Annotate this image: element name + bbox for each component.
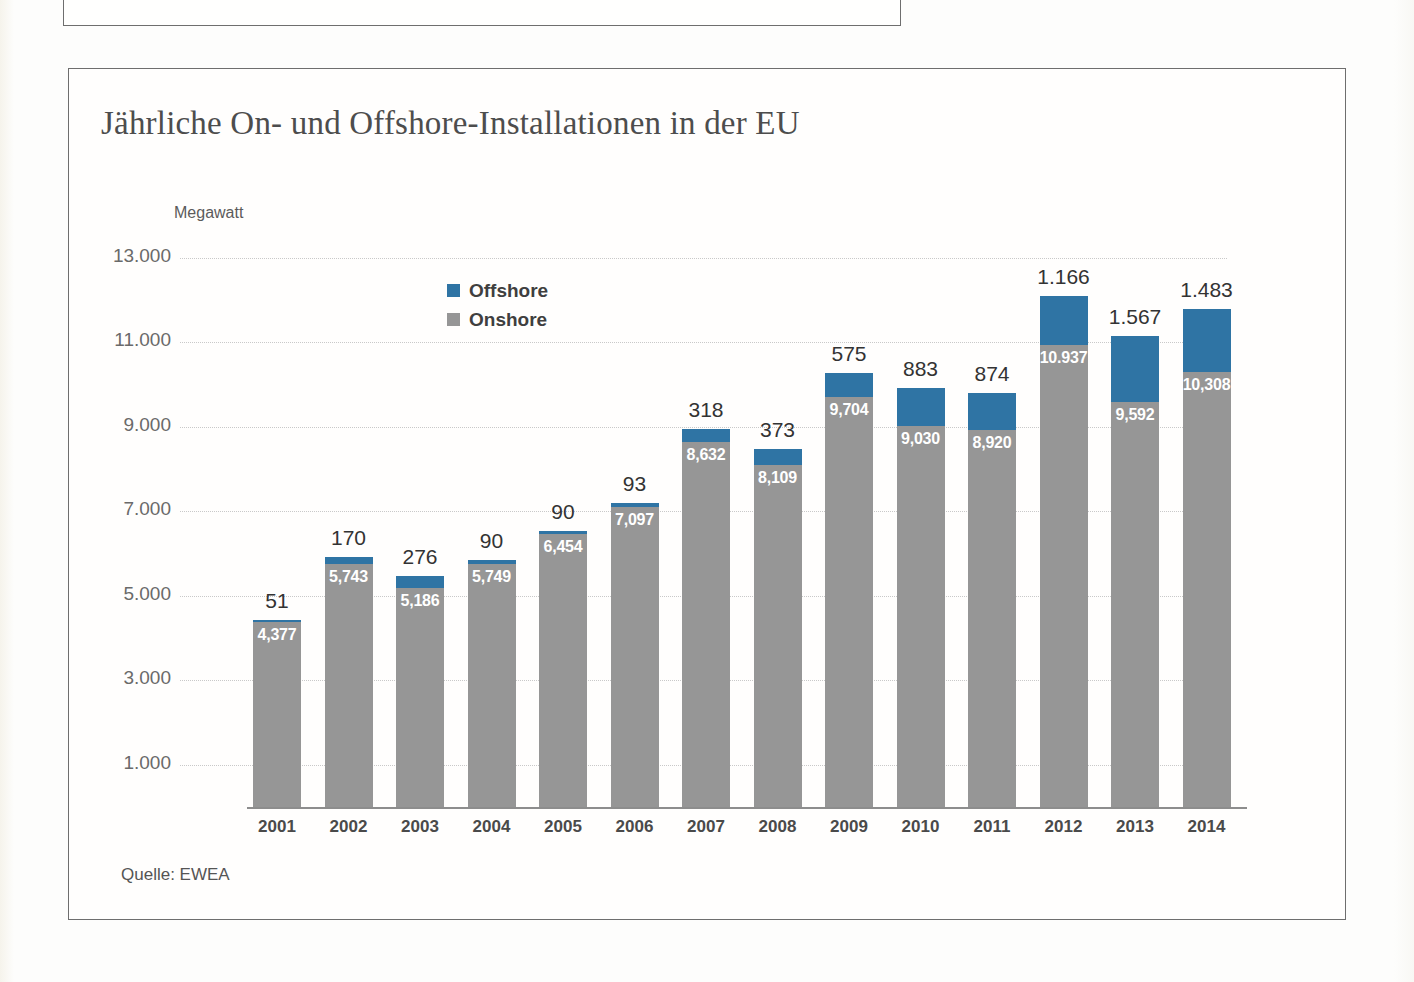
x-axis-tick-label: 2012 xyxy=(1029,817,1099,837)
x-axis-tick-label: 2006 xyxy=(600,817,670,837)
legend-swatch-offshore xyxy=(447,284,460,297)
bar-value-label-offshore: 170 xyxy=(311,526,387,550)
bar-value-label-offshore: 874 xyxy=(954,362,1030,386)
bar-value-label-onshore: 10,308 xyxy=(1183,376,1231,394)
x-axis-tick-label: 2013 xyxy=(1100,817,1170,837)
bar-value-label-offshore: 93 xyxy=(597,472,673,496)
bar-2012: 10.937 xyxy=(1040,296,1088,807)
x-axis-tick-label: 2010 xyxy=(886,817,956,837)
bar-value-label-offshore: 1.166 xyxy=(1026,265,1102,289)
bar-value-label-onshore: 8,109 xyxy=(754,469,802,487)
bar-segment-onshore: 9,030 xyxy=(897,426,945,807)
bar-segment-offshore xyxy=(1183,309,1231,372)
bar-segment-offshore xyxy=(682,429,730,442)
bar-value-label-onshore: 9,592 xyxy=(1111,406,1159,424)
x-axis-tick-label: 2007 xyxy=(671,817,741,837)
bar-segment-offshore xyxy=(825,373,873,397)
bar-segment-offshore xyxy=(754,449,802,465)
bar-segment-onshore: 5,186 xyxy=(396,588,444,807)
bar-2014: 10,308 xyxy=(1183,309,1231,807)
x-axis-tick-label: 2014 xyxy=(1172,817,1242,837)
bar-value-label-offshore: 1.483 xyxy=(1169,278,1245,302)
bar-value-label-offshore: 883 xyxy=(883,357,959,381)
bar-segment-onshore: 8,920 xyxy=(968,430,1016,807)
bar-segment-onshore: 5,743 xyxy=(325,564,373,807)
bar-segment-onshore: 10,308 xyxy=(1183,372,1231,807)
bar-value-label-onshore: 5,743 xyxy=(325,568,373,586)
bar-segment-offshore xyxy=(968,393,1016,430)
bar-value-label-onshore: 6,454 xyxy=(539,538,587,556)
plot-area: 1.0003.0005.0007.0009.00011.00013.0004,3… xyxy=(69,69,1347,921)
bar-segment-offshore xyxy=(1040,296,1088,345)
chart-container: Jährliche On- und Offshore-Installatione… xyxy=(68,68,1346,920)
y-axis-tick-label: 3.000 xyxy=(91,667,171,689)
bar-segment-offshore xyxy=(325,557,373,564)
legend-label-onshore: Onshore xyxy=(469,309,547,331)
bar-value-label-onshore: 9,704 xyxy=(825,401,873,419)
bar-segment-offshore xyxy=(396,576,444,588)
bar-segment-onshore: 8,632 xyxy=(682,442,730,807)
bar-2013: 9,592 xyxy=(1111,336,1159,807)
x-axis-tick-label: 2001 xyxy=(242,817,312,837)
bar-segment-offshore xyxy=(897,388,945,425)
x-axis-tick-label: 2002 xyxy=(314,817,384,837)
gridline xyxy=(180,258,1227,259)
bar-2008: 8,109 xyxy=(754,449,802,807)
legend-swatch-onshore xyxy=(447,313,460,326)
bar-value-label-offshore: 373 xyxy=(740,418,816,442)
bar-segment-onshore: 4,377 xyxy=(253,622,301,807)
bar-value-label-offshore: 90 xyxy=(454,529,530,553)
chart-source: Quelle: EWEA xyxy=(121,865,230,885)
bar-2009: 9,704 xyxy=(825,373,873,807)
bar-value-label-onshore: 8,632 xyxy=(682,446,730,464)
y-axis-tick-label: 5.000 xyxy=(91,583,171,605)
bar-2001: 4,377 xyxy=(253,620,301,807)
y-axis-tick-label: 1.000 xyxy=(91,752,171,774)
chart-legend: Offshore Onshore xyxy=(447,276,548,334)
bar-value-label-offshore: 276 xyxy=(382,545,458,569)
y-axis-tick-label: 11.000 xyxy=(91,329,171,351)
bar-value-label-offshore: 575 xyxy=(811,342,887,366)
partial-box-above-chart xyxy=(63,0,901,26)
bar-value-label-onshore: 8,920 xyxy=(968,434,1016,452)
scan-edge-right xyxy=(1394,0,1414,982)
y-axis-tick-label: 7.000 xyxy=(91,498,171,520)
x-axis-tick-label: 2005 xyxy=(528,817,598,837)
bar-value-label-onshore: 5,186 xyxy=(396,592,444,610)
bar-segment-onshore: 7,097 xyxy=(611,507,659,807)
legend-item-offshore: Offshore xyxy=(447,276,548,305)
x-axis-tick-label: 2004 xyxy=(457,817,527,837)
legend-item-onshore: Onshore xyxy=(447,305,548,334)
bar-value-label-onshore: 10.937 xyxy=(1040,349,1088,367)
bar-value-label-offshore: 51 xyxy=(239,589,315,613)
bar-2007: 8,632 xyxy=(682,429,730,807)
bar-value-label-onshore: 7,097 xyxy=(611,511,659,529)
bar-2006: 7,097 xyxy=(611,503,659,807)
bar-segment-onshore: 9,592 xyxy=(1111,402,1159,807)
bar-2011: 8,920 xyxy=(968,393,1016,807)
bar-segment-onshore: 6,454 xyxy=(539,534,587,807)
bar-2004: 5,749 xyxy=(468,560,516,807)
bar-2010: 9,030 xyxy=(897,388,945,807)
bar-segment-onshore: 9,704 xyxy=(825,397,873,807)
legend-label-offshore: Offshore xyxy=(469,280,548,302)
bar-value-label-onshore: 4,377 xyxy=(253,626,301,644)
y-axis-tick-label: 13.000 xyxy=(91,245,171,267)
x-axis-line xyxy=(247,807,1247,809)
x-axis-tick-label: 2011 xyxy=(957,817,1027,837)
bar-segment-onshore: 5,749 xyxy=(468,564,516,807)
bar-2003: 5,186 xyxy=(396,576,444,807)
x-axis-tick-label: 2003 xyxy=(385,817,455,837)
bar-segment-onshore: 10.937 xyxy=(1040,345,1088,807)
bar-2002: 5,743 xyxy=(325,557,373,807)
bar-value-label-onshore: 5,749 xyxy=(468,568,516,586)
x-axis-tick-label: 2009 xyxy=(814,817,884,837)
y-axis-tick-label: 9.000 xyxy=(91,414,171,436)
bar-value-label-onshore: 9,030 xyxy=(897,430,945,448)
scan-edge-left xyxy=(0,0,14,982)
bar-value-label-offshore: 90 xyxy=(525,500,601,524)
bar-segment-onshore: 8,109 xyxy=(754,465,802,807)
bar-value-label-offshore: 318 xyxy=(668,398,744,422)
bar-value-label-offshore: 1.567 xyxy=(1097,305,1173,329)
bar-segment-offshore xyxy=(1111,336,1159,402)
